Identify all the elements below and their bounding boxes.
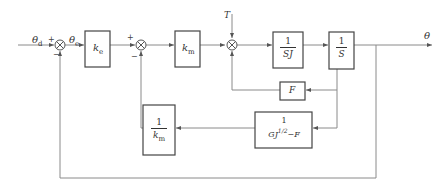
inv-km-denominator: km bbox=[153, 130, 165, 144]
gj-den-tail: −F bbox=[288, 130, 300, 139]
sum1-minus-sign: − bbox=[53, 50, 60, 59]
summing-junction-3 bbox=[227, 40, 237, 50]
input-signal-label: θd bbox=[32, 34, 43, 48]
output-signal-label: θ bbox=[424, 30, 430, 41]
block-gj-label: 1 GJ1/2−F bbox=[262, 116, 306, 140]
error-signal-label: θe bbox=[69, 34, 79, 48]
block-inv-sj-label: 1 SJ bbox=[280, 36, 296, 59]
fraction-bar bbox=[336, 47, 347, 48]
summing-junction-1 bbox=[55, 40, 65, 50]
block-inv-s-label: 1 S bbox=[336, 36, 347, 59]
inv-s-denominator: S bbox=[338, 49, 344, 59]
input-subscript: d bbox=[38, 40, 42, 48]
block-f-label: F bbox=[289, 85, 295, 95]
gj-den-main: GJ bbox=[268, 130, 278, 139]
disturbance-label: T bbox=[224, 10, 230, 20]
block-ke-label: ke bbox=[93, 42, 103, 56]
fraction-bar bbox=[151, 128, 167, 129]
ke-sub: e bbox=[99, 48, 103, 56]
summing-junction-2 bbox=[136, 40, 146, 50]
error-subscript: e bbox=[75, 40, 79, 48]
sum2-minus-sign: − bbox=[131, 52, 138, 61]
fraction-bar bbox=[280, 47, 296, 48]
inv-s-numerator: 1 bbox=[339, 36, 345, 46]
gj-numerator: 1 bbox=[281, 116, 286, 126]
km-sub: m bbox=[188, 48, 195, 56]
inv-km-den-sub: m bbox=[158, 135, 165, 143]
block-km-label: km bbox=[182, 42, 195, 56]
sum2-plus-sign: + bbox=[127, 33, 134, 42]
block-diagram-canvas bbox=[0, 0, 447, 187]
inv-sj-numerator: 1 bbox=[285, 36, 291, 46]
gj-den-sup: 1/2 bbox=[278, 127, 288, 134]
inv-km-numerator: 1 bbox=[156, 117, 162, 127]
sum1-plus-sign: + bbox=[48, 35, 55, 44]
gj-denominator: GJ1/2−F bbox=[268, 126, 300, 140]
block-inv-km-label: 1 km bbox=[151, 117, 167, 144]
inv-sj-denominator: SJ bbox=[283, 49, 293, 59]
